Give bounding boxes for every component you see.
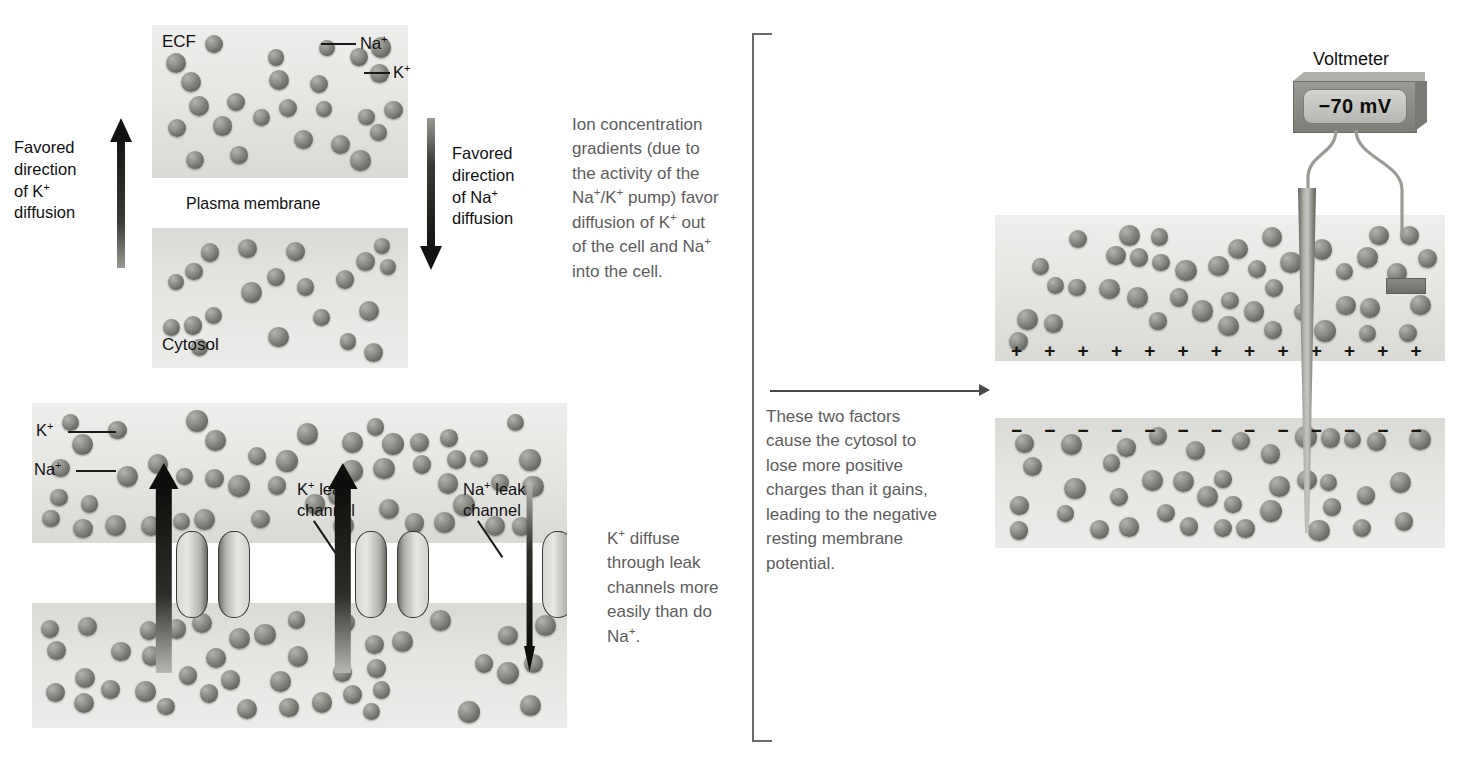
ion-sphere (1221, 292, 1238, 309)
summary-bracket (752, 33, 772, 742)
ion-sphere (331, 135, 350, 154)
ion-sphere (1236, 519, 1255, 538)
positive-charge: + (1244, 341, 1255, 360)
ion-sphere (438, 473, 459, 494)
positive-charge: + (1011, 341, 1022, 360)
k-diffusion-arrow (108, 118, 134, 268)
na-ion-label-bottom: Na+ (34, 459, 62, 480)
negative-charge: − (1277, 421, 1288, 440)
ion-sphere (1353, 519, 1371, 537)
ion-sphere (1069, 230, 1087, 248)
ion-sphere (179, 666, 197, 684)
ion-sphere (1130, 248, 1149, 267)
na-ion-label-top: Na+ (360, 33, 388, 54)
ion-sphere (1186, 441, 1205, 460)
k-leader-line-bottom (68, 431, 116, 433)
ion-sphere (62, 414, 79, 431)
ion-sphere (475, 654, 493, 672)
ion-sphere (205, 430, 226, 451)
ion-sphere (359, 301, 379, 321)
ion-sphere (1103, 454, 1120, 471)
positive-charge: + (1044, 341, 1055, 360)
plasma-membrane-label: Plasma membrane (186, 195, 320, 213)
leak-channel-protein (542, 531, 567, 616)
ion-sphere (73, 519, 92, 538)
negative-charge: − (1078, 421, 1089, 440)
ion-sphere (434, 512, 455, 533)
ion-sphere (313, 309, 330, 326)
positive-charge: + (1111, 341, 1122, 360)
ion-sphere (1127, 287, 1148, 308)
ion-sphere (50, 489, 68, 507)
ion-sphere (270, 671, 291, 692)
ion-sphere (1336, 296, 1355, 315)
ion-sphere (201, 243, 220, 262)
bracket-arrow-head (979, 384, 990, 396)
channel-subunit-right (397, 531, 429, 618)
k-ion-label-bottom: K+ (36, 420, 54, 441)
ion-sphere (184, 316, 202, 334)
ion-sphere (1261, 444, 1280, 463)
positive-charge: + (1178, 341, 1189, 360)
ion-sphere (1218, 316, 1239, 337)
ion-sphere (1175, 260, 1197, 282)
ion-sphere (1047, 277, 1064, 294)
ion-sphere (367, 418, 384, 435)
k-leader-line (364, 72, 390, 74)
negative-charge: − (1244, 421, 1255, 440)
ion-sphere (241, 282, 262, 303)
ion-sphere (288, 646, 309, 667)
ion-sphere (410, 433, 429, 452)
na-flux-arrow (524, 482, 535, 672)
na-leader-line (321, 43, 356, 45)
positive-charge: + (1277, 341, 1288, 360)
na-diffusion-arrow (418, 118, 444, 270)
ion-sphere (447, 450, 466, 469)
ion-sphere (1399, 324, 1417, 342)
negative-charge: − (1377, 421, 1388, 440)
ion-sphere (1269, 476, 1290, 497)
cytosol-label: Cytosol (162, 335, 219, 355)
ion-sphere (41, 620, 59, 638)
positive-charge: + (1377, 341, 1388, 360)
ion-sphere (470, 450, 488, 468)
ion-sphere (1264, 321, 1282, 339)
ion-sphere (200, 684, 219, 703)
ion-sphere (1357, 247, 1378, 268)
ion-sphere (356, 252, 375, 271)
ion-sphere (189, 96, 209, 116)
voltmeter-label: Voltmeter (1313, 49, 1389, 70)
ion-sphere (497, 662, 519, 684)
ion-sphere (1119, 517, 1139, 537)
ion-sphere (163, 319, 180, 336)
ion-sphere (363, 703, 380, 720)
k-flux-arrow (328, 463, 358, 673)
positive-charge: + (1144, 341, 1155, 360)
ecf-label: ECF (162, 32, 196, 52)
ion-sphere (498, 626, 518, 646)
ion-sphere (340, 333, 357, 350)
ion-sphere (367, 659, 386, 678)
ion-sphere (168, 119, 186, 137)
ion-sphere (1106, 246, 1125, 265)
ion-sphere (101, 680, 120, 699)
ion-sphere (75, 668, 95, 688)
negative-charge: − (1411, 421, 1422, 440)
ion-sphere (342, 432, 363, 453)
ion-sphere (1099, 279, 1120, 300)
ion-sphere (373, 458, 395, 480)
ion-sphere (1110, 488, 1128, 506)
ion-sphere (519, 449, 541, 471)
ion-sphere (1090, 520, 1109, 539)
k-diffusion-arrow-label: Favoreddirectionof K+diffusion (14, 137, 110, 224)
ion-sphere (1017, 309, 1038, 330)
membrane-potential-panel (995, 215, 1445, 548)
positive-charge: + (1344, 341, 1355, 360)
ion-sphere (1010, 496, 1029, 515)
ion-sphere (1068, 279, 1085, 296)
ion-sphere (1170, 288, 1189, 307)
na-leak-channel-label: Na+ leakchannel (463, 479, 559, 520)
ion-sphere (535, 615, 556, 636)
positive-charge: + (1078, 341, 1089, 360)
negative-charge: − (1011, 421, 1022, 440)
